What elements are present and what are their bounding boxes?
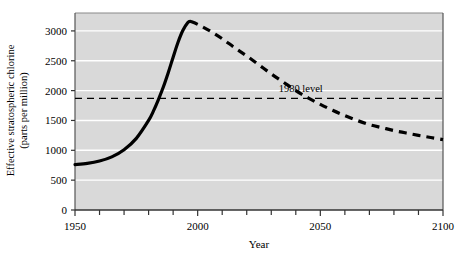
y-tick-label: 1000: [45, 144, 68, 156]
x-tick-label: 2050: [309, 220, 332, 232]
y-tick-label: 0: [62, 204, 68, 216]
y-tick-label: 2000: [45, 85, 68, 97]
chart-figure: Effective stratospheric chlorine (parts …: [0, 0, 462, 254]
x-tick-label: 2000: [187, 220, 210, 232]
x-axis-title: Year: [249, 238, 270, 250]
y-tick-label: 3000: [45, 25, 68, 37]
x-axis: 1950200020502100: [64, 210, 455, 232]
x-tick-label: 1950: [64, 220, 87, 232]
y-tick-label: 1500: [45, 114, 68, 126]
y-axis: 050010001500200025003000: [45, 25, 75, 216]
chart-plot: 050010001500200025003000 195020002050210…: [0, 0, 462, 254]
y-tick-label: 500: [51, 174, 68, 186]
y-tick-label: 2500: [45, 55, 68, 67]
x-tick-label: 2100: [432, 220, 455, 232]
